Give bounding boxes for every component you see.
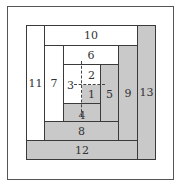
piece-1-label: 1 bbox=[88, 89, 95, 100]
piece-8: 8 bbox=[44, 121, 119, 141]
piece-9-label: 9 bbox=[125, 87, 132, 100]
piece-10: 10 bbox=[44, 25, 138, 46]
piece-12-label: 12 bbox=[75, 144, 89, 157]
piece-7-label: 7 bbox=[51, 77, 58, 90]
center-guide-horizontal bbox=[74, 84, 105, 85]
center-guide-vertical bbox=[81, 61, 82, 117]
piece-10-label: 10 bbox=[84, 29, 98, 42]
piece-7: 7 bbox=[44, 45, 64, 122]
piece-2-label: 2 bbox=[88, 70, 95, 81]
piece-8-label: 8 bbox=[78, 125, 85, 138]
piece-4-label: 4 bbox=[79, 109, 86, 122]
piece-13-label: 13 bbox=[140, 86, 154, 99]
piece-5: 5 bbox=[100, 64, 119, 122]
piece-4: 4 bbox=[63, 103, 101, 122]
piece-3-label: 3 bbox=[67, 80, 74, 91]
piece-6-label: 6 bbox=[88, 49, 95, 62]
piece-6: 6 bbox=[63, 45, 119, 65]
piece-12: 12 bbox=[26, 140, 138, 160]
piece-11: 11 bbox=[26, 25, 45, 141]
piece-5-label: 5 bbox=[106, 88, 113, 101]
piece-13: 13 bbox=[137, 25, 156, 160]
piece-11-label: 11 bbox=[29, 77, 43, 90]
piece-9: 9 bbox=[118, 45, 138, 141]
